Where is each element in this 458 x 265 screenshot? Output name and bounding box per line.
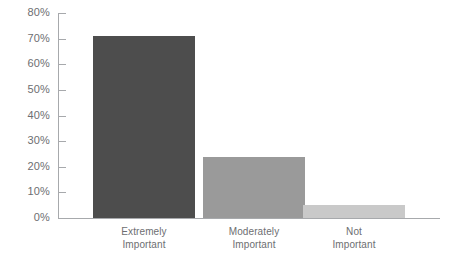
y-axis-tick-label-wrap: 60% <box>0 58 50 69</box>
y-axis-tick-label: 10% <box>4 186 50 197</box>
y-axis-tick-label-wrap: 30% <box>0 135 50 146</box>
y-axis-tick-label: 30% <box>4 135 50 146</box>
y-axis-tick-label: 40% <box>4 110 50 121</box>
x-axis-label-line: Important <box>303 238 405 251</box>
y-axis-tick-label-wrap: 10% <box>0 186 50 197</box>
x-axis-label-line: Extremely <box>93 225 195 238</box>
x-axis-label-3: NotImportant <box>303 225 405 251</box>
y-axis-tick-label: 20% <box>4 161 50 172</box>
x-axis-label-1: ExtremelyImportant <box>93 225 195 251</box>
y-axis-tick-label-wrap: 20% <box>0 161 50 172</box>
bar-1 <box>93 36 195 218</box>
y-axis-tick-label-wrap: 0% <box>0 212 50 223</box>
x-axis-line <box>58 218 440 219</box>
y-axis-tick-label: 0% <box>4 212 50 223</box>
plot-area <box>58 13 440 218</box>
y-axis-tick-label: 50% <box>4 84 50 95</box>
x-axis-label-line: Important <box>93 238 195 251</box>
y-axis-tick-label: 60% <box>4 58 50 69</box>
x-axis-label-line: Moderately <box>203 225 305 238</box>
x-axis-label-line: Important <box>203 238 305 251</box>
x-axis-label-line: Not <box>303 225 405 238</box>
bar-2 <box>203 157 305 219</box>
bar-3 <box>303 205 405 218</box>
y-axis-tick-label-wrap: 40% <box>0 110 50 121</box>
y-axis-tick-label-wrap: 80% <box>0 7 50 18</box>
y-axis-tick-label: 80% <box>4 7 50 18</box>
y-axis-tick-label-wrap: 70% <box>0 33 50 44</box>
bar-chart: 0%10%20%30%40%50%60%70%80% ExtremelyImpo… <box>0 0 458 265</box>
y-axis-tick-label: 70% <box>4 33 50 44</box>
x-axis-label-2: ModeratelyImportant <box>203 225 305 251</box>
y-axis-tick-label-wrap: 50% <box>0 84 50 95</box>
